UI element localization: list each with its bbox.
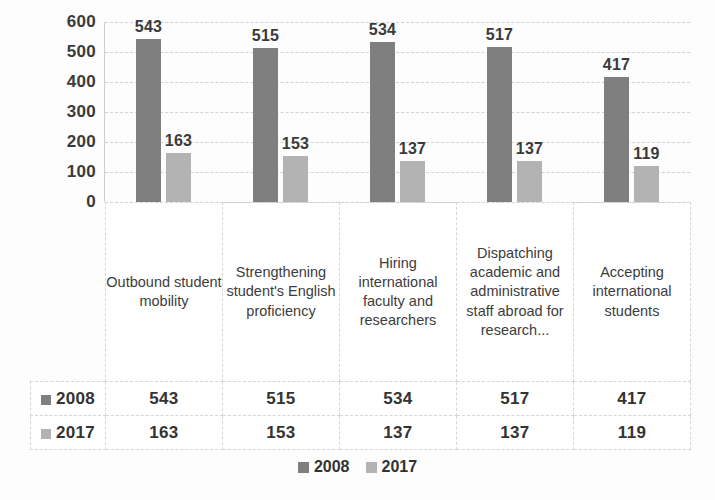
bar-value-label-2017-0: 163 <box>165 132 192 150</box>
bar-2008-0[interactable]: 543 <box>136 39 161 202</box>
series-swatch-2017-icon <box>41 429 51 439</box>
bar-2017-4[interactable]: 119 <box>634 166 659 202</box>
category-group-0: 543 163 <box>105 22 222 202</box>
bar-value-label-2008-0: 543 <box>135 18 162 36</box>
y-tick-100: 100 <box>67 162 96 182</box>
bar-2008-2[interactable]: 534 <box>370 42 395 202</box>
category-group-1: 515 153 <box>222 22 339 202</box>
table-cell-2017-2: 137 <box>340 416 457 450</box>
bar-2008-4[interactable]: 417 <box>604 77 629 202</box>
y-tick-400: 400 <box>67 72 96 92</box>
table-series-name-2008: 2008 <box>56 389 95 408</box>
bar-value-label-2008-1: 515 <box>252 27 279 45</box>
category-group-4: 417 119 <box>573 22 690 202</box>
y-tick-300: 300 <box>67 102 96 122</box>
bar-2017-0[interactable]: 163 <box>166 153 191 202</box>
plot-wrapper: 600 500 400 300 200 100 0 543 <box>30 22 690 202</box>
bar-2017-2[interactable]: 137 <box>400 161 425 202</box>
category-group-2: 534 137 <box>339 22 456 202</box>
table-row-2017: 2017 163 153 137 137 119 <box>31 416 691 450</box>
table-cell-2008-3: 517 <box>457 382 574 416</box>
category-label-2: Hiring international faculty and researc… <box>340 203 457 382</box>
bar-pair-1: 515 153 <box>222 22 339 202</box>
series-swatch-2008-icon <box>41 395 51 405</box>
bar-pair-4: 417 119 <box>573 22 690 202</box>
table-cell-2017-3: 137 <box>457 416 574 450</box>
data-table: Outbound student mobility Strengthening … <box>30 202 691 450</box>
bar-value-label-2008-3: 517 <box>486 26 513 44</box>
table-series-label-2017: 2017 <box>31 416 106 450</box>
bar-2008-1[interactable]: 515 <box>253 48 278 203</box>
y-tick-600: 600 <box>67 12 96 32</box>
y-tick-200: 200 <box>67 132 96 152</box>
legend-item-2017[interactable]: 2017 <box>366 458 418 476</box>
category-row-spacer <box>31 203 106 382</box>
table-row-2008: 2008 543 515 534 517 417 <box>31 382 691 416</box>
legend-label-2008: 2008 <box>314 458 350 476</box>
bar-value-label-2017-4: 119 <box>633 145 659 163</box>
bar-value-label-2017-1: 153 <box>282 135 309 153</box>
bar-value-label-2008-4: 417 <box>603 56 630 74</box>
y-tick-500: 500 <box>67 42 96 62</box>
bar-2017-3[interactable]: 137 <box>517 161 542 202</box>
category-label-4: Accepting international students <box>574 203 691 382</box>
legend-swatch-2017-icon <box>366 462 377 473</box>
table-cell-2008-2: 534 <box>340 382 457 416</box>
table-cell-2017-0: 163 <box>106 416 223 450</box>
bar-value-label-2017-3: 137 <box>516 140 543 158</box>
table-series-name-2017: 2017 <box>56 423 95 442</box>
table-cell-2017-1: 153 <box>223 416 340 450</box>
table-cell-2017-4: 119 <box>574 416 691 450</box>
bar-pair-2: 534 137 <box>339 22 456 202</box>
category-label-0: Outbound student mobility <box>106 203 223 382</box>
legend-swatch-2008-icon <box>298 462 309 473</box>
bar-chart-with-data-table: 600 500 400 300 200 100 0 543 <box>0 0 715 500</box>
bars-layer: 543 163 515 153 <box>105 22 690 202</box>
table-row-categories: Outbound student mobility Strengthening … <box>31 203 691 382</box>
bar-value-label-2008-2: 534 <box>369 21 396 39</box>
y-axis: 600 500 400 300 200 100 0 <box>30 22 102 202</box>
bar-2008-3[interactable]: 517 <box>487 47 512 202</box>
table-cell-2008-4: 417 <box>574 382 691 416</box>
table-cell-2008-0: 543 <box>106 382 223 416</box>
legend-item-2008[interactable]: 2008 <box>298 458 350 476</box>
legend-label-2017: 2017 <box>382 458 418 476</box>
chart-legend: 2008 2017 <box>0 458 715 476</box>
table-cell-2008-1: 515 <box>223 382 340 416</box>
category-group-3: 517 137 <box>456 22 573 202</box>
category-label-3: Dispatching academic and administrative … <box>457 203 574 382</box>
table-series-label-2008: 2008 <box>31 382 106 416</box>
bar-2017-1[interactable]: 153 <box>283 156 308 202</box>
category-label-1: Strengthening student's English proficie… <box>223 203 340 382</box>
bar-pair-0: 543 163 <box>105 22 222 202</box>
bar-value-label-2017-2: 137 <box>399 140 426 158</box>
plot-area: 543 163 515 153 <box>105 22 690 202</box>
bar-pair-3: 517 137 <box>456 22 573 202</box>
